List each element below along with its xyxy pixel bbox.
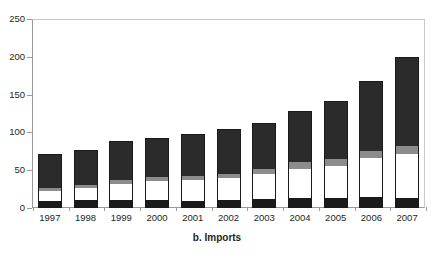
- bar-segment-segment-4: [252, 123, 276, 170]
- bar-2007: [395, 57, 419, 208]
- bar-1999: [109, 141, 133, 208]
- bar-segment-segment-1: [252, 199, 276, 208]
- bar-segment-segment-1: [324, 198, 348, 208]
- x-tick-label-1997: 1997: [39, 212, 60, 223]
- chart-figure: 050100150200250 199719981999200020012002…: [0, 0, 434, 259]
- bar-segment-segment-2: [395, 154, 419, 199]
- x-tick-label-2007: 2007: [397, 212, 418, 223]
- bar-2005: [324, 101, 348, 208]
- bar-segment-segment-2: [324, 166, 348, 199]
- bar-2001: [181, 134, 205, 208]
- bar-segment-segment-3: [288, 162, 312, 169]
- bar-segment-segment-4: [217, 129, 241, 174]
- bar-segment-segment-4: [359, 81, 383, 151]
- bar-segment-segment-3: [359, 151, 383, 158]
- x-tick-label-2006: 2006: [361, 212, 382, 223]
- bar-segment-segment-2: [359, 158, 383, 197]
- bar-segment-segment-2: [145, 181, 169, 200]
- bar-2006: [359, 81, 383, 208]
- bar-segment-segment-4: [181, 134, 205, 176]
- bar-segment-segment-1: [181, 201, 205, 208]
- bar-2002: [217, 129, 241, 208]
- x-tick-label-2004: 2004: [289, 212, 310, 223]
- bar-2004: [288, 110, 312, 208]
- x-tick-label-2005: 2005: [325, 212, 346, 223]
- bar-segment-segment-1: [217, 200, 241, 208]
- bar-1997: [38, 154, 62, 208]
- bar-segment-segment-1: [109, 200, 133, 208]
- bar-1998: [74, 150, 98, 208]
- x-tick-label-2000: 2000: [146, 212, 167, 223]
- bar-segment-segment-4: [324, 101, 348, 158]
- bar-segment-segment-3: [324, 159, 348, 166]
- chart-caption: b. Imports: [0, 232, 434, 243]
- bar-segment-segment-4: [395, 57, 419, 146]
- bar-segment-segment-2: [217, 178, 241, 200]
- x-tick-label-1999: 1999: [111, 212, 132, 223]
- bar-segment-segment-2: [74, 188, 98, 200]
- bar-segment-segment-1: [359, 197, 383, 208]
- bar-2003: [252, 123, 276, 208]
- bar-segment-segment-2: [288, 169, 312, 198]
- bar-segment-segment-3: [395, 146, 419, 154]
- bar-segment-segment-4: [145, 138, 169, 177]
- bar-segment-segment-1: [395, 198, 419, 208]
- x-tick-label-2001: 2001: [182, 212, 203, 223]
- bar-segment-segment-1: [38, 201, 62, 208]
- x-tick-label-2002: 2002: [218, 212, 239, 223]
- x-tick-label-2003: 2003: [254, 212, 275, 223]
- bar-segment-segment-4: [109, 141, 133, 180]
- bar-segment-segment-4: [38, 154, 62, 187]
- bar-segment-segment-1: [145, 200, 169, 208]
- bar-segment-segment-4: [74, 150, 98, 185]
- bar-segment-segment-2: [38, 191, 62, 201]
- x-axis: 1997199819992000200120022003200420052006…: [32, 212, 425, 230]
- bar-segment-segment-2: [109, 184, 133, 201]
- x-tick-label-1998: 1998: [75, 212, 96, 223]
- bar-2000: [145, 138, 169, 208]
- bar-segment-segment-1: [74, 200, 98, 208]
- bar-segment-segment-1: [288, 198, 312, 208]
- bar-segment-segment-4: [288, 111, 312, 162]
- bar-segment-segment-2: [252, 174, 276, 199]
- bar-segment-segment-2: [181, 180, 205, 201]
